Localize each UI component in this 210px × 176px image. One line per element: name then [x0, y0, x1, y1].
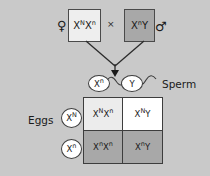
punnett-cell-top-left: XNXn — [84, 98, 123, 131]
egg-gamete-xn-recessive: Xn — [61, 139, 82, 159]
female-symbol: ♀ — [57, 19, 67, 32]
cross-symbol: × — [107, 19, 115, 29]
male-symbol: ♂ — [155, 20, 167, 33]
punnett-cell-bottom-left-genotype: XnXn — [93, 142, 113, 152]
punnett-cell-bottom-left: XnXn — [84, 131, 123, 164]
punnett-grid: XNXn XNY XnXn XnY — [83, 97, 163, 164]
eggs-label: Eggs — [28, 114, 53, 126]
sperm-gamete-y: Y — [121, 75, 143, 92]
sperm-gamete-y-label: Y — [129, 79, 134, 89]
female-parent-genotype: XNXn — [73, 20, 96, 31]
sperm-gamete-xn: Xn — [88, 75, 110, 92]
egg-gamete-xn-dominant-label: XN — [66, 113, 77, 123]
egg-gamete-xn-recessive-label: Xn — [67, 144, 77, 154]
punnett-square-diagram: ♀ XNXn × XnY ♂ Xn Y Sperm Eggs XN Xn XNX… — [0, 0, 210, 176]
female-parent-genotype-box: XNXn — [68, 9, 101, 42]
male-parent-genotype: XnY — [131, 20, 148, 31]
sperm-gamete-xn-label: Xn — [94, 79, 104, 89]
punnett-cell-top-right: XNY — [123, 98, 162, 131]
punnett-cell-bottom-right: XnY — [123, 131, 162, 164]
male-parent-genotype-box: XnY — [124, 9, 155, 42]
egg-gamete-xn-dominant: XN — [61, 108, 82, 128]
punnett-cell-bottom-right-genotype: XnY — [135, 142, 150, 152]
punnett-cell-top-left-genotype: XNXn — [93, 109, 114, 119]
sperm-label: Sperm — [162, 78, 196, 90]
punnett-cell-top-right-genotype: XNY — [135, 109, 151, 119]
